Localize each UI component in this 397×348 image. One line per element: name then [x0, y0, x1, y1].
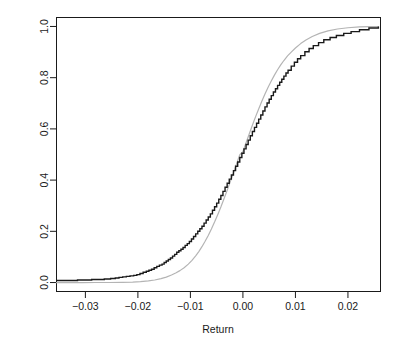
x-axis-tick-label: −0.02: [125, 300, 152, 312]
x-axis-tick-label: 0.01: [285, 300, 306, 312]
x-axis-tick-label: −0.01: [177, 300, 204, 312]
x-axis-tick-label: 0.00: [233, 300, 254, 312]
ecdf-plot-figure: −0.03−0.02−0.010.000.010.02 0.00.20.40.6…: [0, 0, 397, 348]
plot-canvas: −0.03−0.02−0.010.000.010.02 0.00.20.40.6…: [0, 0, 397, 348]
x-axis-tick-label: −0.03: [72, 300, 99, 312]
y-axis-tick-label: 1.0: [39, 19, 51, 34]
x-axis-title: Return: [202, 323, 234, 335]
y-axis-tick-label: 0.4: [39, 173, 51, 188]
figure-background: [0, 0, 397, 348]
y-axis-tick-label: 0.0: [39, 275, 51, 290]
y-axis-tick-label: 0.6: [39, 121, 51, 136]
y-axis-tick-label: 0.8: [39, 70, 51, 85]
x-axis-tick-label: 0.02: [338, 300, 359, 312]
y-axis-tick-label: 0.2: [39, 224, 51, 239]
